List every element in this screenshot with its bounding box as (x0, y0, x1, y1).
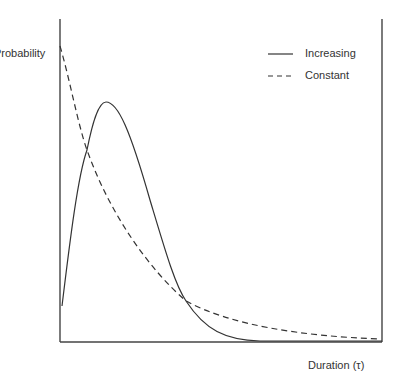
legend-label-increasing: Increasing (305, 47, 356, 59)
y-axis-label: Probability (0, 47, 45, 59)
x-axis-label: Duration (τ) (308, 359, 364, 371)
legend-label-constant: Constant (305, 69, 349, 81)
series-increasing-line (62, 102, 382, 341)
series-constant-line (60, 46, 380, 339)
